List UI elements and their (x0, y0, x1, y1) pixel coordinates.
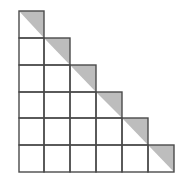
grid-cell (19, 92, 44, 118)
grid-cell (44, 65, 70, 92)
grid-cell (96, 145, 122, 172)
grid-cell (70, 118, 96, 145)
shaded-triangle (122, 118, 148, 145)
grid-cell (19, 145, 44, 172)
shaded-triangle (19, 11, 44, 38)
shaded-triangle (70, 65, 96, 92)
grid-cell (44, 92, 70, 118)
grid-cell (19, 118, 44, 145)
grid-cell (44, 145, 70, 172)
shaded-triangle (96, 92, 122, 118)
grid-cell (19, 65, 44, 92)
grid-cell (122, 145, 148, 172)
shaded-triangle (148, 145, 174, 172)
grid-cell (70, 92, 96, 118)
grid-cell (70, 145, 96, 172)
grid-cell (96, 118, 122, 145)
grid-cell (44, 118, 70, 145)
grid-cell (19, 38, 44, 65)
staircase-grid-diagram (0, 0, 183, 181)
shaded-triangle (44, 38, 70, 65)
